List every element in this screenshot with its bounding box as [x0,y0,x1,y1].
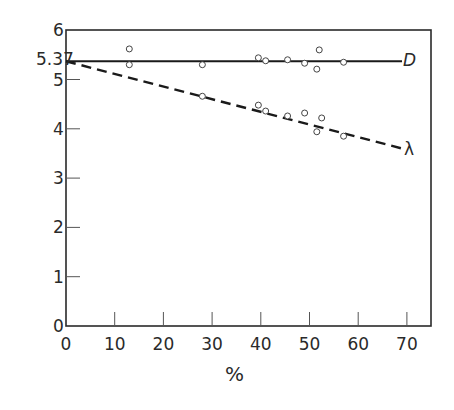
data-point [255,55,261,61]
data-point [302,60,308,66]
y-tick-label: 2 [53,217,64,237]
y-tick-label: 1 [53,267,64,287]
x-tick-label: 0 [61,334,72,354]
data-points [126,46,346,139]
data-point [199,62,205,68]
y-tick-label: 0 [53,316,64,336]
data-point [263,108,269,114]
y-tick-label: 5 [53,70,64,90]
data-point [126,46,132,52]
data-point [319,115,325,121]
data-point [341,133,347,139]
data-point [341,59,347,65]
data-point [285,57,291,63]
chart: 0123456 010203040506070 5.37 D λ % [0,0,454,410]
data-point [255,102,261,108]
data-point [285,113,291,119]
series-label-lambda: λ [404,139,414,159]
data-point [302,110,308,116]
x-tick-label: 10 [104,334,126,354]
series-label-d: D [403,50,416,70]
x-tick-label: 20 [153,334,175,354]
y-tick-label: 4 [53,119,64,139]
x-tick-label: 30 [201,334,223,354]
y-tick-label: 3 [53,168,64,188]
data-point [316,47,322,53]
data-point [199,93,205,99]
x-tick-label: 70 [396,334,418,354]
fit-lines [66,61,402,148]
y-special-label: 5.37 [36,49,74,69]
data-point [314,129,320,135]
data-point [314,66,320,72]
y-tick-label: 6 [53,20,64,40]
x-axis-title: % [225,362,244,386]
x-axis: 010203040506070 [61,312,418,354]
data-point [263,58,269,64]
data-point [126,62,132,68]
line-lambda [66,61,402,148]
x-tick-label: 40 [250,334,272,354]
x-tick-label: 60 [347,334,369,354]
x-tick-label: 50 [299,334,321,354]
